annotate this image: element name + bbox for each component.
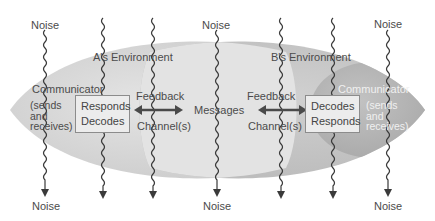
communicator-b-box-line-2: Responds xyxy=(311,114,354,129)
communicator-b-box: Decodes Responds xyxy=(305,95,360,133)
communicator-b-box-line-1: Decodes xyxy=(311,99,354,114)
noise-arrowheads xyxy=(41,189,392,199)
arrowhead-down-icon xyxy=(384,189,392,197)
channel-label-left: Channel(s) xyxy=(137,121,191,132)
arrowhead-down-icon xyxy=(99,191,107,199)
communicator-a-title: Communicator xyxy=(32,84,104,95)
communicator-a-role-line: (sends xyxy=(30,100,73,111)
noise-label-top-right: Noise xyxy=(374,19,402,30)
noise-label-top-left: Noise xyxy=(31,20,59,31)
communicator-b-role-line: (sends xyxy=(366,100,409,111)
communicator-a-box-line-1: Responds xyxy=(81,99,124,114)
arrowhead-down-icon xyxy=(329,191,337,199)
communicator-a-role-line: receives) xyxy=(30,121,73,132)
arrowhead-down-icon xyxy=(149,191,157,199)
arrowhead-down-icon xyxy=(213,189,221,197)
communicator-a-box-line-2: Decodes xyxy=(81,114,124,129)
feedback-label-right: Feedback xyxy=(247,91,295,102)
messages-label: Messages xyxy=(194,105,244,116)
communicator-a-role: (sends and receives) xyxy=(30,100,73,132)
environment-a-label: A's Environment xyxy=(93,52,173,63)
feedback-label-left: Feedback xyxy=(136,91,184,102)
noise-label-top-center: Noise xyxy=(202,20,230,31)
arrowhead-down-icon xyxy=(41,189,49,197)
communicator-b-title: Communicator xyxy=(338,84,410,95)
environment-b-label: B's Environment xyxy=(271,52,351,63)
communicator-b-role: (sends and receives) xyxy=(366,100,409,132)
noise-label-bottom-center: Noise xyxy=(203,201,231,212)
communication-model-diagram: Noise Noise Noise Noise Noise Noise A's … xyxy=(0,0,435,221)
arrowhead-down-icon xyxy=(277,191,285,199)
noise-label-bottom-left: Noise xyxy=(32,201,60,212)
communicator-a-box: Responds Decodes xyxy=(75,95,130,133)
communicator-b-role-line: receives) xyxy=(366,121,409,132)
channel-label-right: Channel(s) xyxy=(248,121,302,132)
noise-label-bottom-right: Noise xyxy=(374,201,402,212)
